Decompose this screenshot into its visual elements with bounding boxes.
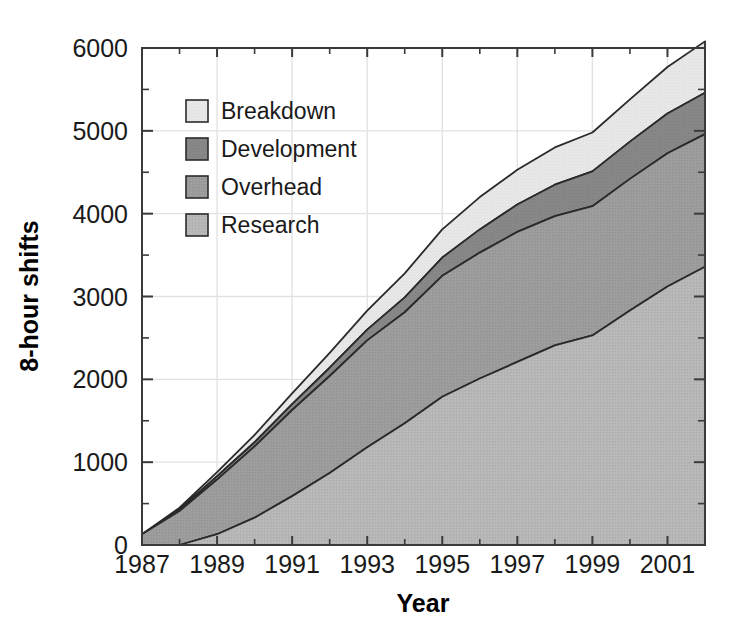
y-axis-title: 8-hour shifts [15,220,43,371]
y-tick-label: 4000 [72,200,128,228]
y-tick-label: 2000 [72,365,128,393]
y-axis-tick-labels: 0100020003000400050006000 [72,34,128,559]
x-tick-label: 1997 [490,550,546,578]
legend-label-development: Development [221,136,357,162]
stacked-area-chart: 19871989199119931995199719992001 0100020… [0,0,737,636]
y-tick-label: 6000 [72,34,128,62]
x-axis-title: Year [397,589,450,617]
x-tick-label: 1995 [414,550,470,578]
chart-figure: 19871989199119931995199719992001 0100020… [0,0,737,636]
legend-swatch-development [186,138,208,160]
y-tick-label: 1000 [72,448,128,476]
x-tick-label: 1991 [264,550,320,578]
legend-swatch-breakdown [186,100,208,122]
legend-label-breakdown: Breakdown [221,98,336,124]
x-tick-label: 2001 [640,550,696,578]
y-tick-label: 0 [114,531,128,559]
x-tick-label: 1999 [565,550,621,578]
y-tick-label: 3000 [72,283,128,311]
legend-swatch-research [186,214,208,236]
x-tick-label: 1993 [339,550,395,578]
legend-label-research: Research [221,212,319,238]
x-axis-tick-labels: 19871989199119931995199719992001 [114,550,695,578]
x-tick-label: 1989 [189,550,245,578]
y-tick-label: 5000 [72,117,128,145]
legend-label-overhead: Overhead [221,174,322,200]
legend-swatch-overhead [186,176,208,198]
